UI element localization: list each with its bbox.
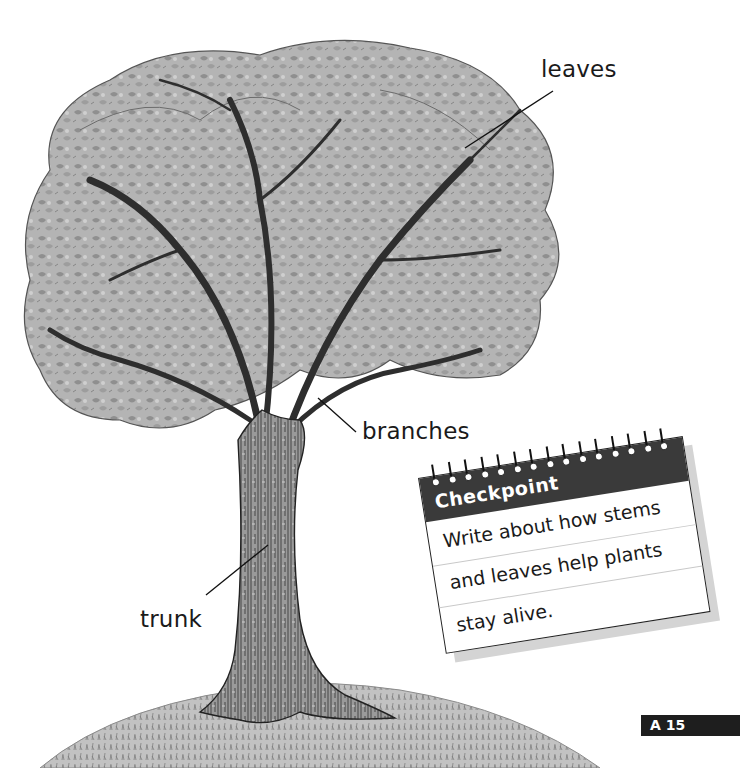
tree-canopy: [24, 40, 558, 428]
page-number-badge: A 15: [641, 715, 740, 736]
tree-trunk: [200, 410, 395, 723]
label-leaves: leaves: [541, 56, 617, 82]
tree-illustration: [0, 0, 740, 768]
label-branches: branches: [362, 418, 470, 444]
textbook-page: leaves branches trunk Checkpoint Write a…: [0, 0, 740, 768]
checkpoint-line-3: stay alive.: [455, 599, 555, 636]
branches-pointer: [318, 398, 356, 432]
label-trunk: trunk: [140, 606, 202, 632]
